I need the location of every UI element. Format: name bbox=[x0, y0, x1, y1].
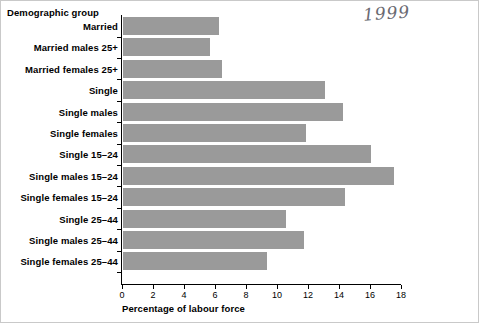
x-axis-tick-label: 2 bbox=[150, 290, 155, 300]
bar-row: Married males 25+ bbox=[122, 38, 401, 56]
category-label: Single males 15–24 bbox=[29, 170, 118, 181]
y-axis-tick bbox=[117, 37, 121, 38]
category-label: Married bbox=[83, 21, 118, 32]
bar bbox=[123, 231, 304, 249]
x-axis-tick bbox=[339, 285, 340, 289]
category-label: Single males bbox=[59, 106, 118, 117]
x-axis-tick bbox=[153, 285, 154, 289]
y-axis-tick bbox=[117, 272, 121, 273]
category-label: Single females 25–44 bbox=[20, 256, 118, 267]
bar bbox=[123, 167, 394, 185]
y-axis-tick bbox=[117, 101, 121, 102]
x-axis-tick-label: 10 bbox=[272, 290, 282, 300]
y-axis-tick bbox=[117, 229, 121, 230]
category-label: Single 15–24 bbox=[59, 149, 118, 160]
x-axis-tick-label: 18 bbox=[396, 290, 406, 300]
bar bbox=[123, 210, 286, 228]
bar-row: Single males bbox=[122, 103, 401, 121]
x-axis-tick bbox=[215, 285, 216, 289]
bar bbox=[123, 38, 210, 56]
bar bbox=[123, 145, 371, 163]
bar bbox=[123, 60, 222, 78]
y-axis-tick bbox=[117, 251, 121, 252]
y-axis-tick bbox=[117, 58, 121, 59]
category-label: Single 25–44 bbox=[59, 213, 118, 224]
bar bbox=[123, 81, 325, 99]
bar-row: Single females 25–44 bbox=[122, 252, 401, 270]
x-axis-title: Percentage of labour force bbox=[122, 303, 245, 314]
bar bbox=[123, 252, 267, 270]
x-axis-tick-label: 6 bbox=[212, 290, 217, 300]
x-axis-tick-label: 4 bbox=[181, 290, 186, 300]
category-label: Single females 15–24 bbox=[20, 192, 118, 203]
category-label: Married females 25+ bbox=[25, 63, 118, 74]
x-axis-line bbox=[122, 284, 401, 285]
bar bbox=[123, 124, 306, 142]
bar-row: Single males 25–44 bbox=[122, 231, 401, 249]
bar-row: Married females 25+ bbox=[122, 60, 401, 78]
y-axis-title: Demographic group bbox=[7, 7, 99, 18]
y-axis-tick bbox=[117, 186, 121, 187]
category-label: Single females bbox=[50, 128, 118, 139]
bar-row: Married bbox=[122, 17, 401, 35]
bar-row: Single 15–24 bbox=[122, 145, 401, 163]
y-axis-tick bbox=[117, 79, 121, 80]
y-axis-tick bbox=[117, 144, 121, 145]
x-axis-tick bbox=[246, 285, 247, 289]
category-label: Single males 25–44 bbox=[29, 235, 118, 246]
x-axis-tick bbox=[370, 285, 371, 289]
x-axis-tick-label: 12 bbox=[303, 290, 313, 300]
x-axis-tick bbox=[122, 285, 123, 289]
bar-row: Single females 15–24 bbox=[122, 188, 401, 206]
bar bbox=[123, 103, 343, 121]
y-axis-tick bbox=[117, 208, 121, 209]
x-axis-tick bbox=[401, 285, 402, 289]
x-axis-tick-label: 0 bbox=[119, 290, 124, 300]
bar-row: Single 25–44 bbox=[122, 210, 401, 228]
x-axis-tick-label: 14 bbox=[334, 290, 344, 300]
bar-row: Single males 15–24 bbox=[122, 167, 401, 185]
x-axis-tick bbox=[277, 285, 278, 289]
y-axis-tick bbox=[117, 165, 121, 166]
category-label: Single bbox=[89, 85, 118, 96]
x-axis-tick-label: 16 bbox=[365, 290, 375, 300]
bar-row: Single bbox=[122, 81, 401, 99]
bar-row: Single females bbox=[122, 124, 401, 142]
x-axis-tick-label: 8 bbox=[243, 290, 248, 300]
bar bbox=[123, 17, 219, 35]
bar bbox=[123, 188, 345, 206]
x-axis-tick bbox=[184, 285, 185, 289]
bar-chart-figure: 1999 Demographic group MarriedMarried ma… bbox=[0, 0, 479, 323]
plot-area: MarriedMarried males 25+Married females … bbox=[122, 17, 401, 283]
x-axis-tick bbox=[308, 285, 309, 289]
category-label: Married males 25+ bbox=[34, 42, 118, 53]
y-axis-tick bbox=[117, 122, 121, 123]
